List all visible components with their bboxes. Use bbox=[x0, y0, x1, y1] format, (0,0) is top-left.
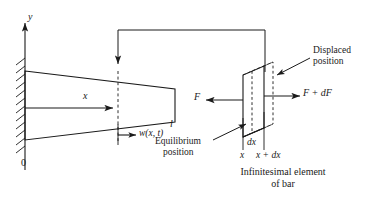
equilibrium-position-label-line2: position bbox=[163, 147, 194, 157]
equilibrium-position-leader bbox=[213, 124, 246, 140]
element-callout-leader bbox=[118, 30, 265, 72]
y-axis-label: y bbox=[28, 12, 32, 23]
dx-label: dx bbox=[247, 137, 256, 147]
bar-length-label: l bbox=[170, 119, 173, 130]
element-caption-line1: Infinitesimal element bbox=[218, 167, 348, 178]
element-x-label: x bbox=[240, 150, 244, 160]
displaced-position-label-line2: position bbox=[313, 56, 344, 66]
force-F-label: F bbox=[194, 92, 200, 103]
element-front-face bbox=[243, 66, 264, 137]
figure-canvas: y 0 x l w(x, t) F F + dF Displaced posit… bbox=[0, 0, 365, 197]
element-equilibrium-body bbox=[243, 66, 264, 137]
force-arrows bbox=[206, 96, 300, 100]
fixed-support-hatching bbox=[16, 58, 25, 153]
bar-x-label: x bbox=[83, 91, 87, 102]
origin-label: 0 bbox=[21, 158, 26, 169]
equilibrium-position-label-line1: Equilibrium bbox=[155, 136, 201, 146]
displaced-position-label-line1: Displaced bbox=[313, 45, 351, 55]
element-caption-line2: of bar bbox=[218, 179, 348, 190]
displaced-position-leader bbox=[277, 58, 310, 75]
callout-bracket bbox=[118, 30, 265, 72]
element-x-plus-dx-label: x + dx bbox=[256, 150, 280, 160]
force-F-plus-dF-label: F + dF bbox=[303, 88, 332, 99]
element-displaced-face bbox=[252, 62, 273, 133]
